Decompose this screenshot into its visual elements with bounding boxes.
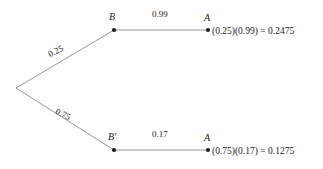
edge-root-to-b bbox=[16, 30, 114, 88]
node-label-a-upper: A bbox=[204, 13, 210, 23]
node-label-b: B bbox=[109, 12, 115, 22]
node-bprime bbox=[112, 148, 116, 152]
result-lower: (0.75)(0.17) = 0.1275 bbox=[212, 147, 294, 157]
node-label-bprime: B' bbox=[108, 132, 116, 142]
node-a-upper bbox=[206, 28, 210, 32]
branch-probability-lower-second: 0.17 bbox=[152, 130, 168, 139]
probability-tree-diagram: 0.25 B 0.99 A (0.25)(0.99) = 0.2475 0.75… bbox=[0, 0, 323, 169]
node-label-a-lower: A bbox=[204, 133, 210, 143]
branch-probability-upper-second: 0.99 bbox=[152, 10, 168, 19]
result-upper: (0.25)(0.99) = 0.2475 bbox=[212, 27, 294, 37]
node-a-lower bbox=[206, 148, 210, 152]
node-b bbox=[112, 28, 116, 32]
